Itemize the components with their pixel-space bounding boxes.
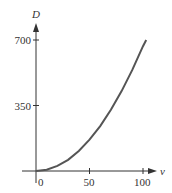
x-tick-label: 100 (134, 176, 151, 188)
y-tick-label: 350 (15, 100, 32, 112)
ticks: 050100350700 (15, 34, 152, 188)
y-tick-label: 700 (15, 34, 32, 46)
y-axis-label: D (31, 8, 40, 20)
x-tick-label: 50 (84, 176, 96, 188)
x-axis-label: v (160, 165, 165, 177)
chart: 050100350700 D v (0, 0, 172, 193)
data-curve (36, 40, 146, 171)
x-tick-label: 0 (38, 176, 44, 188)
x-axis-arrow-icon (148, 168, 157, 174)
axes (22, 23, 157, 183)
y-axis-arrow-icon (33, 23, 39, 32)
